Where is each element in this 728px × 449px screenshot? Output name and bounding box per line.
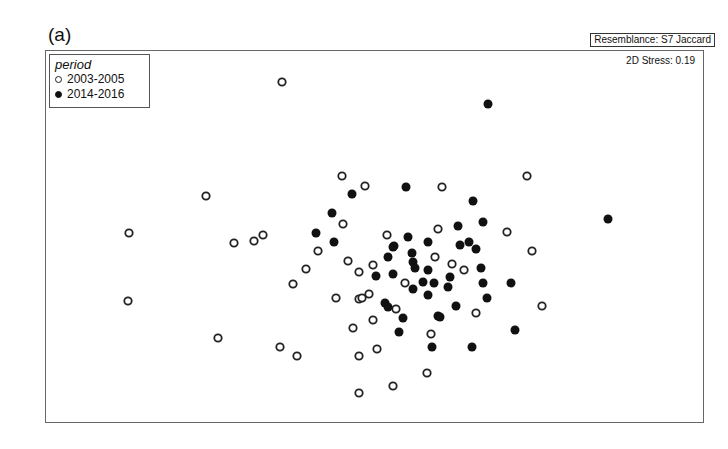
data-point-filled — [484, 100, 493, 109]
data-point-open — [369, 261, 376, 268]
data-point-filled — [430, 279, 439, 288]
data-point-open — [314, 247, 321, 254]
data-point-open — [448, 260, 455, 267]
data-point-filled — [444, 283, 453, 292]
data-point-open — [355, 389, 362, 396]
data-point-open — [259, 231, 266, 238]
data-point-filled — [483, 294, 492, 303]
data-point-filled — [424, 291, 433, 300]
data-point-open — [431, 253, 438, 260]
data-point-open — [361, 182, 368, 189]
data-point-filled — [472, 245, 481, 254]
data-point-open — [355, 352, 362, 359]
data-point-filled — [402, 183, 411, 192]
data-point-open — [460, 266, 467, 273]
data-point-open — [523, 172, 530, 179]
data-point-filled — [454, 222, 463, 231]
data-point-open — [332, 294, 339, 301]
data-point-filled — [372, 272, 381, 281]
data-point-open — [338, 172, 345, 179]
data-point-filled — [452, 302, 461, 311]
data-point-open — [358, 294, 365, 301]
data-point-filled — [436, 313, 445, 322]
data-point-open — [401, 279, 408, 286]
data-point-filled — [348, 190, 357, 199]
data-point-open — [427, 330, 434, 337]
data-point-filled — [328, 209, 337, 218]
data-point-filled — [479, 279, 488, 288]
scatter-points — [0, 0, 728, 449]
data-point-filled — [389, 270, 398, 279]
data-point-open — [528, 247, 535, 254]
data-point-open — [438, 183, 445, 190]
data-point-filled — [411, 264, 420, 273]
data-point-open — [278, 78, 285, 85]
data-point-filled — [384, 253, 393, 262]
data-point-filled — [424, 238, 433, 247]
data-point-open — [392, 305, 399, 312]
data-point-open — [302, 265, 309, 272]
data-point-filled — [395, 328, 404, 337]
data-point-open — [383, 231, 390, 238]
data-point-open — [214, 334, 221, 341]
data-point-open — [434, 225, 441, 232]
data-point-filled — [511, 326, 520, 335]
data-point-open — [389, 382, 396, 389]
data-point-open — [538, 302, 545, 309]
data-point-filled — [446, 273, 455, 282]
data-point-filled — [456, 241, 465, 250]
data-point-filled — [477, 264, 486, 273]
data-point-filled — [408, 249, 417, 258]
data-point-filled — [424, 266, 433, 275]
data-point-open — [423, 369, 430, 376]
data-point-open — [125, 229, 132, 236]
data-point-filled — [507, 279, 516, 288]
data-point-open — [202, 192, 209, 199]
data-point-filled — [428, 343, 437, 352]
data-point-open — [349, 324, 356, 331]
data-point-filled — [312, 229, 321, 238]
data-point-filled — [409, 285, 418, 294]
data-point-open — [289, 280, 296, 287]
data-point-filled — [604, 215, 613, 224]
data-point-filled — [469, 197, 478, 206]
data-point-open — [124, 297, 131, 304]
data-point-filled — [419, 278, 428, 287]
data-point-open — [230, 239, 237, 246]
data-point-filled — [390, 242, 399, 251]
data-point-filled — [384, 303, 393, 312]
data-point-open — [503, 228, 510, 235]
data-point-open — [355, 268, 362, 275]
data-point-open — [293, 352, 300, 359]
data-point-open — [339, 220, 346, 227]
data-point-filled — [465, 238, 474, 247]
data-point-filled — [330, 238, 339, 247]
data-point-open — [344, 257, 351, 264]
data-point-filled — [479, 218, 488, 227]
data-point-filled — [399, 314, 408, 323]
data-point-filled — [468, 343, 477, 352]
data-point-open — [250, 237, 257, 244]
data-point-open — [365, 290, 372, 297]
data-point-open — [276, 343, 283, 350]
data-point-open — [472, 309, 479, 316]
data-point-open — [369, 316, 376, 323]
data-point-open — [373, 345, 380, 352]
data-point-filled — [404, 233, 413, 242]
